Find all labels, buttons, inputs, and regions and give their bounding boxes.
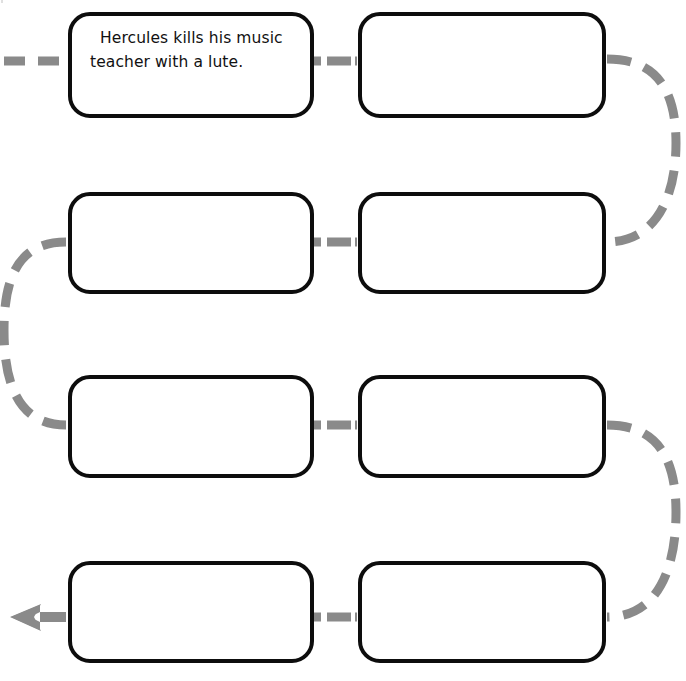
- flow-box-5[interactable]: [68, 375, 314, 478]
- flow-box-8[interactable]: [358, 561, 606, 663]
- flow-box-4[interactable]: [358, 192, 606, 294]
- flow-box-1-text: Hercules kills his music teacher with a …: [90, 26, 296, 74]
- flow-box-1[interactable]: Hercules kills his music teacher with a …: [68, 12, 314, 118]
- exit-arrow-connector: [10, 604, 66, 631]
- right-arc-bottom-connector: [607, 425, 676, 617]
- flow-box-7[interactable]: [68, 561, 314, 663]
- worksheet-canvas: Hercules kills his music teacher with a …: [0, 0, 686, 681]
- flow-box-3[interactable]: [68, 192, 314, 294]
- right-arc-top-connector: [607, 59, 676, 242]
- flow-box-6[interactable]: [358, 375, 606, 478]
- left-arc-connector: [4, 242, 66, 425]
- flow-box-2[interactable]: [358, 12, 606, 118]
